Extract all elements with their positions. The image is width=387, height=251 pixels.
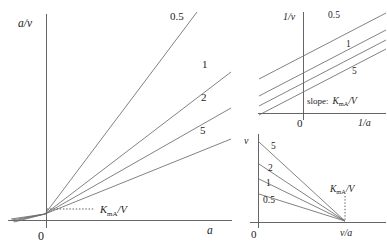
lb-curve-label-1: 1 — [346, 39, 351, 49]
main-curve-label-2: 2 — [201, 91, 207, 103]
main-curve-label-1: 1 — [202, 58, 208, 70]
lb-slope-annotation: slope:KmA/V — [307, 96, 358, 107]
main-curve-label-0: 0.5 — [170, 10, 184, 22]
eh-curve-label-0: 5 — [271, 141, 276, 151]
main-km-annotation: KmA/V — [99, 204, 128, 218]
eh-curve-label-2: 1 — [266, 178, 271, 188]
eh-line-5 — [259, 142, 345, 221]
eh-y-axis-label: v — [244, 135, 249, 146]
lb-x-axis-label: 1/a — [358, 117, 371, 128]
main-origin-label: 0 — [38, 229, 44, 243]
lb-origin-label: 0 — [297, 117, 303, 129]
figure-root: a/v a 0 KmA/V 0.5 1 2 5 — [0, 0, 387, 251]
eh-curve-label-1: 2 — [268, 163, 273, 173]
eh-curve-label-3: 0.5 — [263, 195, 275, 205]
eh-km-annotation: KmA/V — [329, 184, 356, 195]
main-x-axis-label: a — [207, 224, 213, 236]
main-data-lines — [11, 12, 231, 222]
panel-lineweaver-burk: 1/v 1/a 0 0.5 1 5 slope:KmA/V — [258, 10, 386, 129]
kinetics-figure: a/v a 0 KmA/V 0.5 1 2 5 — [0, 0, 387, 251]
lb-curve-label-2: 5 — [352, 66, 357, 76]
main-curve-label-3: 5 — [200, 124, 206, 136]
eh-origin-label: 0 — [251, 228, 257, 240]
eh-x-axis-label: v/a — [340, 227, 352, 238]
main-y-axis-label: a/v — [18, 17, 33, 29]
panel-hanes-woolf: a/v a 0 KmA/V 0.5 1 2 5 — [8, 10, 232, 243]
panel-eadie-hofstee: v v/a 0 5 2 1 0.5 KmA/V — [244, 134, 386, 240]
lb-line-0.5 — [259, 13, 386, 79]
lb-line-1 — [259, 30, 386, 96]
lb-curve-label-0: 0.5 — [328, 10, 340, 20]
lb-y-axis-label: 1/v — [283, 11, 296, 22]
eh-data-lines — [259, 142, 345, 221]
